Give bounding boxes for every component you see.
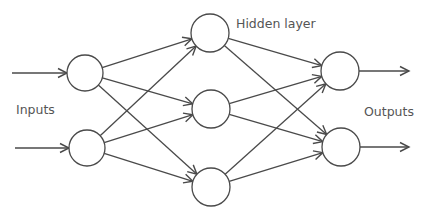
edge-i2-h3: [104, 153, 193, 181]
edge-h3-o2: [229, 153, 323, 182]
inputs-label: Inputs: [16, 104, 55, 117]
network-graph: [0, 0, 423, 217]
hidden-node-h1: [191, 14, 229, 52]
outputs-label: Outputs: [364, 106, 414, 119]
edge-i2-h1: [100, 46, 196, 136]
input-node-i1: [67, 55, 103, 91]
input-node-i2: [69, 130, 105, 166]
edge-i1-h3: [98, 85, 197, 174]
nodes: [67, 14, 360, 206]
hidden-layer-label: Hidden layer: [236, 18, 316, 31]
neural-network-diagram: Inputs Hidden layer Outputs: [0, 0, 423, 217]
edge-h3-o1: [225, 84, 326, 175]
hidden-node-h3: [192, 168, 230, 206]
output-node-o2: [322, 128, 360, 166]
hidden-node-h2: [192, 90, 230, 128]
output-node-o1: [321, 52, 359, 90]
